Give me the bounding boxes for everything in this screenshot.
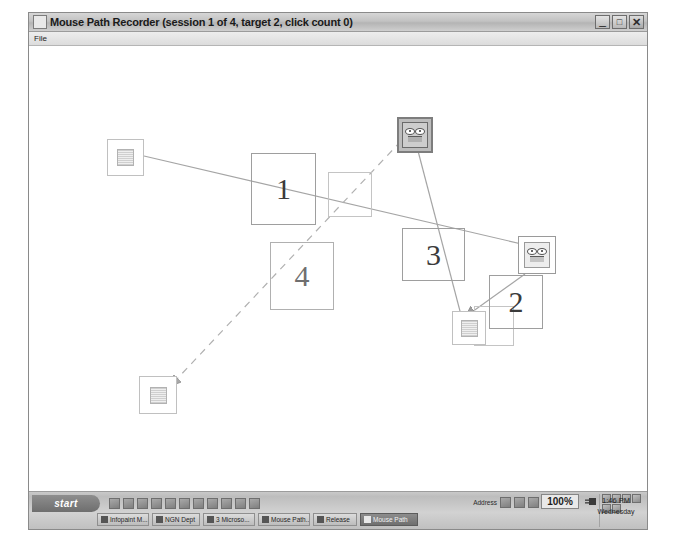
- face-glyph: [403, 123, 427, 147]
- quick-launch-icon-5[interactable]: [165, 498, 176, 509]
- quick-launch-icon-8[interactable]: [207, 498, 218, 509]
- taskbar-button-icon: [207, 516, 214, 523]
- quick-launch-icon-10[interactable]: [235, 498, 246, 509]
- target-face-icon: [461, 320, 478, 337]
- numbered-box-label: 4: [295, 259, 310, 293]
- quick-launch-icon-3[interactable]: [137, 498, 148, 509]
- target-idle-top-left[interactable]: [107, 139, 144, 176]
- minimize-button[interactable]: _: [595, 15, 610, 29]
- target-face-icon: [150, 387, 167, 404]
- menu-bar: File: [29, 32, 647, 46]
- taskbar-button[interactable]: Release: [313, 513, 357, 526]
- taskbar-button[interactable]: NGN Dept: [152, 513, 200, 526]
- address-toolbar-icon-2[interactable]: [514, 497, 525, 508]
- numbered-box: 2: [489, 275, 543, 329]
- numbered-box-label: 2: [509, 285, 524, 319]
- taskbar-button-label: NGN Dept: [165, 516, 195, 523]
- window-icon: [33, 15, 47, 29]
- task-button-list: Infopaint M...NGN Dept3 Microso...Mouse …: [97, 513, 418, 526]
- taskbar-button-icon: [101, 516, 108, 523]
- desktop-frame: Mouse Path Recorder (session 1 of 4, tar…: [28, 12, 648, 530]
- taskbar: start Infopaint M...NGN Dept3 Microso...…: [29, 491, 647, 529]
- numbered-box-label: 3: [426, 238, 441, 272]
- quick-launch-icon-2[interactable]: [123, 498, 134, 509]
- zoom-level-indicator[interactable]: 100%: [541, 494, 579, 509]
- target-active-top[interactable]: [397, 117, 433, 153]
- target-idle-bottom-left[interactable]: [139, 376, 177, 414]
- address-toolbar-icon-1[interactable]: [500, 497, 511, 508]
- face-glyph: [525, 243, 549, 267]
- clock-day: Wednesday: [587, 506, 645, 517]
- mouse-path-recorder-window: Mouse Path Recorder (session 1 of 4, tar…: [29, 13, 647, 491]
- start-button[interactable]: start: [32, 495, 100, 512]
- quick-launch-icon-4[interactable]: [151, 498, 162, 509]
- minimize-icon: _: [596, 16, 609, 28]
- numbered-box: 3: [402, 228, 465, 281]
- address-toolbar-icon-3[interactable]: [528, 497, 539, 508]
- menu-item-file[interactable]: File: [29, 32, 52, 45]
- numbered-box: 4: [270, 242, 334, 310]
- taskbar-button-icon: [156, 516, 163, 523]
- taskbar-button-label: Mouse Path...: [271, 516, 310, 523]
- quick-launch-icon-9[interactable]: [221, 498, 232, 509]
- taskbar-button[interactable]: 3 Microso...: [203, 513, 255, 526]
- target-face-icon: [117, 149, 134, 166]
- maximize-icon: □: [613, 16, 626, 28]
- target-face-icon: [524, 242, 550, 268]
- close-icon: ✕: [630, 16, 643, 28]
- taskbar-button[interactable]: Mouse Path: [360, 513, 418, 526]
- quick-launch-bar: [109, 496, 260, 510]
- taskbar-button-icon: [317, 516, 324, 523]
- close-button[interactable]: ✕: [629, 15, 644, 29]
- taskbar-button-icon: [364, 516, 371, 523]
- numbered-box-label: 1: [276, 172, 291, 206]
- taskbar-button-label: Mouse Path: [373, 516, 408, 523]
- address-toolbar[interactable]: Address: [473, 495, 539, 509]
- recording-canvas[interactable]: 1432: [29, 46, 647, 490]
- window-title: Mouse Path Recorder (session 1 of 4, tar…: [50, 16, 595, 28]
- taskbar-button-label: 3 Microso...: [216, 516, 250, 523]
- taskbar-button-label: Release: [326, 516, 350, 523]
- taskbar-button[interactable]: Mouse Path...: [258, 513, 310, 526]
- maximize-button[interactable]: □: [612, 15, 627, 29]
- clock[interactable]: 1:46 PM Wednesday: [587, 495, 645, 517]
- target-idle-center[interactable]: [452, 311, 486, 345]
- target-face-icon: [402, 122, 428, 148]
- quick-launch-icon-11[interactable]: [249, 498, 260, 509]
- quick-launch-icon-1[interactable]: [109, 498, 120, 509]
- window-controls: _ □ ✕: [595, 15, 647, 29]
- numbered-box: 1: [251, 153, 316, 225]
- target-active-right[interactable]: [518, 236, 556, 274]
- quick-launch-icon-7[interactable]: [193, 498, 204, 509]
- address-toolbar-label: Address: [473, 499, 497, 506]
- taskbar-button-label: Infopaint M...: [110, 516, 148, 523]
- quick-launch-icon-6[interactable]: [179, 498, 190, 509]
- empty-box: [328, 172, 372, 217]
- clock-time: 1:46 PM: [587, 495, 645, 506]
- taskbar-button[interactable]: Infopaint M...: [97, 513, 149, 526]
- title-bar: Mouse Path Recorder (session 1 of 4, tar…: [29, 13, 647, 32]
- taskbar-button-icon: [262, 516, 269, 523]
